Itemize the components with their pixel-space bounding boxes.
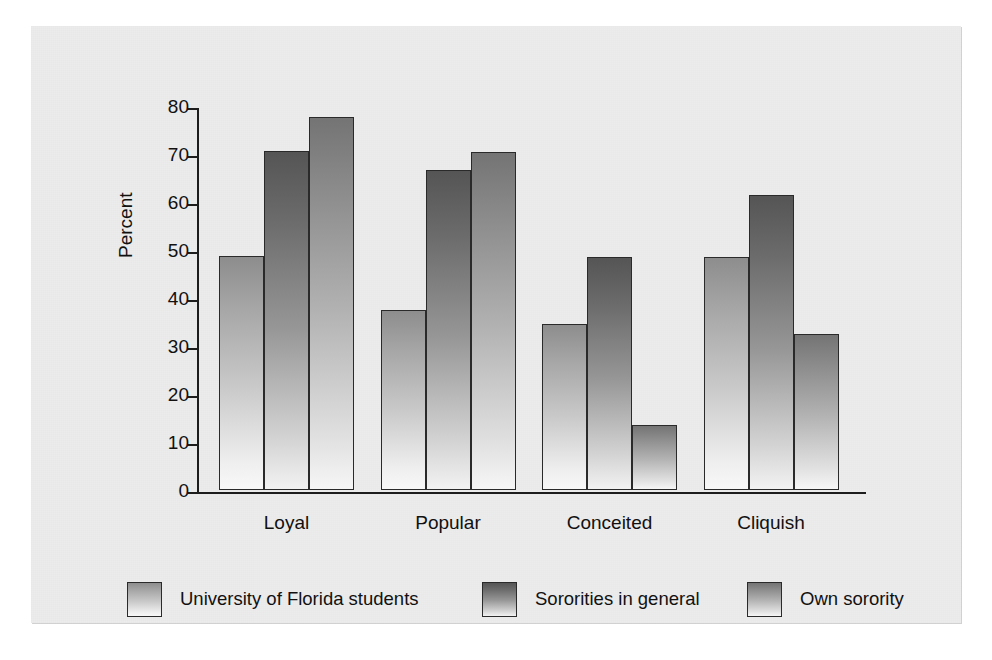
y-tick-label: 30 [149, 336, 189, 358]
y-tick-label: 60 [149, 192, 189, 214]
legend-item[interactable]: Sororities in general [482, 577, 700, 621]
y-tick-label: 0 [149, 480, 189, 502]
bar [749, 195, 794, 490]
bar [794, 334, 839, 490]
bar [704, 257, 749, 490]
bar [426, 170, 471, 490]
bar [542, 324, 587, 490]
bar [309, 117, 354, 490]
bar-group [542, 106, 677, 490]
bar [381, 310, 426, 490]
plot-area: 01020304050607080 LoyalPopularConceitedC… [197, 108, 865, 492]
bar [264, 151, 309, 490]
figure: Percent 01020304050607080 LoyalPopularCo… [0, 0, 992, 660]
x-axis-line [197, 492, 866, 494]
y-tick-label: 10 [149, 432, 189, 454]
bar-group [381, 106, 516, 490]
y-axis-line [197, 108, 199, 493]
bar [587, 257, 632, 490]
y-tick-label: 40 [149, 288, 189, 310]
legend-label: University of Florida students [180, 588, 419, 610]
y-tick-label: 20 [149, 384, 189, 406]
y-tick-label: 70 [149, 144, 189, 166]
legend-label: Own sorority [800, 588, 904, 610]
legend: University of Florida studentsSororities… [127, 577, 927, 621]
legend-swatch-icon [127, 582, 162, 617]
category-label: Cliquish [674, 512, 869, 534]
chart-panel: Percent 01020304050607080 LoyalPopularCo… [31, 26, 961, 623]
bar [632, 425, 677, 490]
legend-item[interactable]: University of Florida students [127, 577, 419, 621]
bar [219, 256, 264, 490]
y-tick-label: 80 [149, 96, 189, 118]
bar [471, 152, 516, 490]
legend-swatch-icon [747, 582, 782, 617]
legend-label: Sororities in general [535, 588, 700, 610]
legend-item[interactable]: Own sorority [747, 577, 904, 621]
bar-group [704, 106, 839, 490]
legend-swatch-icon [482, 582, 517, 617]
bar-group [219, 106, 354, 490]
y-axis-title: Percent [115, 193, 137, 258]
y-tick-label: 50 [149, 240, 189, 262]
